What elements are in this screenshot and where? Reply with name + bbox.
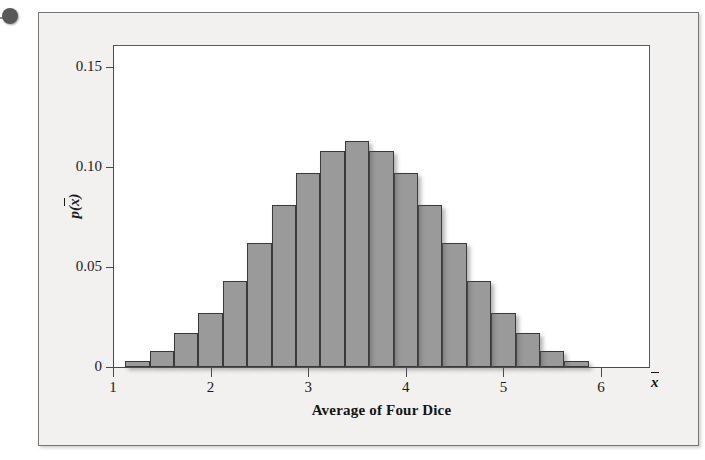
y-axis-tick-label: 0.05 (44, 259, 102, 274)
y-axis-tick (106, 267, 114, 268)
histogram-bar (491, 313, 515, 367)
x-axis-tick (601, 368, 602, 377)
x-axis-tick (503, 368, 504, 377)
y-axis-tick (106, 167, 114, 168)
x-axis-tick-label: 6 (586, 380, 616, 395)
x-axis-tick-label: 1 (98, 380, 128, 395)
histogram-bar (394, 173, 418, 367)
x-axis-tick (211, 368, 212, 377)
x-axis-tick (113, 368, 114, 377)
y-axis-title: p(x) (66, 182, 86, 230)
x-axis-tick-label: 5 (488, 380, 518, 395)
histogram-bar (247, 243, 271, 367)
x-axis-tick (406, 368, 407, 377)
histogram-bar (564, 361, 588, 367)
x-axis-title: Average of Four Dice (113, 402, 650, 419)
x-axis-tick-label: 4 (391, 380, 421, 395)
histogram-bar (369, 151, 393, 367)
histogram-bar (150, 351, 174, 367)
histogram-bar (516, 333, 540, 367)
histogram-bar (272, 205, 296, 367)
histogram-bar (320, 151, 344, 367)
histogram-bar (296, 173, 320, 367)
x-axis-tick-label: 3 (293, 380, 323, 395)
histogram-bar (540, 351, 564, 367)
histogram-bar (174, 333, 198, 367)
y-axis-line (113, 45, 114, 368)
y-axis-tick-label: 0 (44, 359, 102, 374)
histogram-bar (198, 313, 222, 367)
histogram-bar (125, 361, 149, 367)
x-axis-variable-symbol: x (651, 374, 659, 391)
histogram-bar (345, 141, 369, 367)
figure-page: 00.050.100.15 123456 p(x) Average of Fou… (0, 0, 705, 460)
y-axis-tick-label: 0.10 (44, 159, 102, 174)
x-axis-tick (308, 368, 309, 377)
y-axis-tick-label: 0.15 (44, 59, 102, 74)
x-axis-line (113, 367, 650, 368)
histogram-bar (418, 205, 442, 367)
y-axis-tick (106, 67, 114, 68)
histogram-bar (467, 281, 491, 367)
x-axis-tick-label: 2 (196, 380, 226, 395)
x-axis-symbol-glyph: x (651, 374, 659, 391)
histogram-bar (442, 243, 466, 367)
y-axis-title-xbar: x (66, 199, 83, 207)
y-axis-title-p: p( (66, 206, 82, 219)
histogram-bar (223, 281, 247, 367)
